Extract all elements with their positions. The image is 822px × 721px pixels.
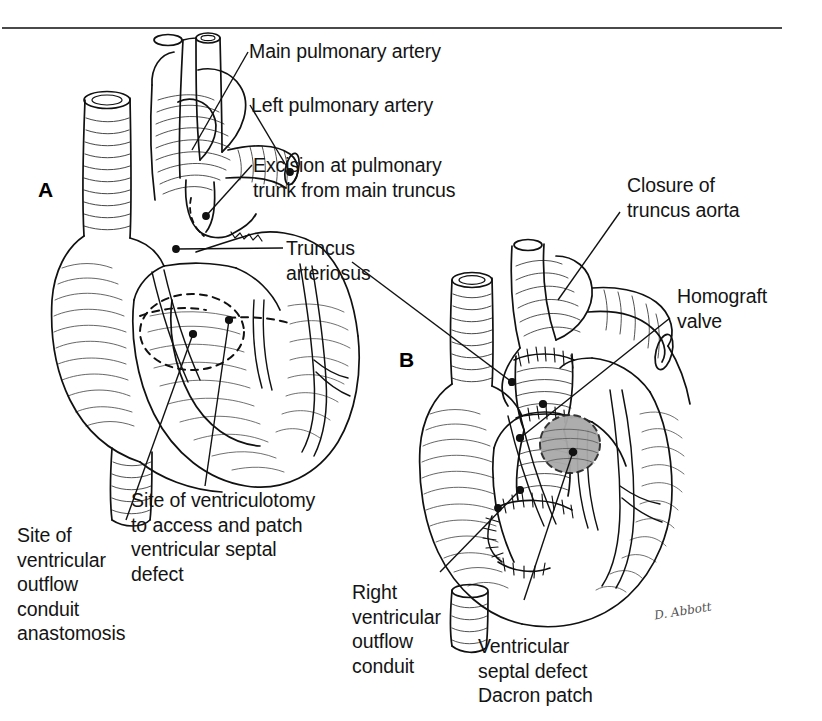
- panel-a-leader-lines: [126, 52, 293, 520]
- callout-truncus-arteriosus: Truncus arteriosus: [286, 236, 371, 285]
- panel-b-leader-lines: [352, 212, 670, 600]
- callout-closure-truncus-aorta: Closure of truncus aorta: [627, 173, 740, 222]
- callout-left-pulmonary-artery: Left pulmonary artery: [251, 93, 433, 118]
- header-divider-rule: [2, 27, 782, 29]
- callout-right-ventricular-outflow-conduit: Right ventricular outflow conduit: [352, 580, 441, 678]
- callout-main-pulmonary-artery: Main pulmonary artery: [249, 39, 441, 64]
- callout-excision-pulmonary-trunk: Excision at pulmonary trunk from main tr…: [253, 153, 456, 202]
- callout-site-outflow-conduit-anastomosis: Site of ventricular outflow conduit anas…: [17, 523, 125, 646]
- callout-homograft-valve: Homograft valve: [677, 284, 767, 333]
- panel-label-b: B: [399, 348, 415, 372]
- callout-vsd-dacron-patch: Ventricular septal defect Dacron patch: [478, 634, 593, 708]
- panel-label-a: A: [38, 178, 54, 202]
- artist-signature: D. Abbott: [653, 600, 712, 623]
- figure-page: A B Main pulmonary artery Left pulmonary…: [0, 0, 822, 721]
- callout-site-ventriculotomy: Site of ventriculotomy to access and pat…: [131, 488, 315, 586]
- panel-b-heart-drawing: [420, 240, 690, 653]
